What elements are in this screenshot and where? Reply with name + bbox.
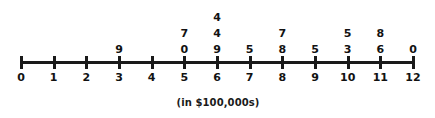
tick-mark <box>249 56 252 69</box>
value-stack-5: 07 <box>181 25 189 57</box>
value-stack-9: 5 <box>311 41 319 57</box>
data-value: 9 <box>213 41 221 57</box>
value-stack-8: 87 <box>279 25 287 57</box>
value-stack-6: 944 <box>213 9 221 57</box>
tick-label-8: 8 <box>279 72 287 83</box>
tick-label-0: 0 <box>17 72 25 83</box>
data-value: 5 <box>311 41 319 57</box>
data-value: 8 <box>377 25 385 41</box>
axis-units-caption: (in $100,000s) <box>176 97 259 108</box>
tick-label-9: 9 <box>311 72 319 83</box>
tick-mark <box>118 56 121 69</box>
tick-mark <box>183 56 186 69</box>
tick-label-6: 6 <box>213 72 221 83</box>
value-stack-11: 68 <box>377 25 385 57</box>
tick-label-11: 11 <box>373 72 388 83</box>
data-value: 5 <box>344 25 352 41</box>
data-value: 7 <box>279 25 287 41</box>
data-value: 5 <box>246 41 254 57</box>
data-value: 0 <box>181 41 189 57</box>
data-value: 4 <box>213 25 221 41</box>
tick-mark <box>412 56 415 69</box>
tick-mark <box>314 56 317 69</box>
data-value: 0 <box>409 41 417 57</box>
data-value: 9 <box>115 41 123 57</box>
tick-mark <box>347 56 350 69</box>
tick-mark <box>20 56 23 69</box>
tick-label-2: 2 <box>83 72 91 83</box>
data-value: 4 <box>213 9 221 25</box>
tick-mark <box>85 56 88 69</box>
tick-label-10: 10 <box>340 72 355 83</box>
value-stack-10: 35 <box>344 25 352 57</box>
tick-label-4: 4 <box>148 72 156 83</box>
data-value: 3 <box>344 41 352 57</box>
tick-mark <box>281 56 284 69</box>
tick-mark <box>379 56 382 69</box>
data-value: 6 <box>377 41 385 57</box>
value-stack-3: 9 <box>115 41 123 57</box>
tick-mark <box>151 56 154 69</box>
tick-label-12: 12 <box>405 72 420 83</box>
tick-label-3: 3 <box>115 72 123 83</box>
tick-label-5: 5 <box>181 72 189 83</box>
tick-mark <box>216 56 219 69</box>
value-stack-12: 0 <box>409 41 417 57</box>
value-stack-7: 5 <box>246 41 254 57</box>
data-value: 7 <box>181 25 189 41</box>
tick-label-1: 1 <box>50 72 58 83</box>
dot-plot-figure: 0123456789101112 907944587535680 (in $10… <box>0 0 435 118</box>
data-value: 8 <box>279 41 287 57</box>
tick-label-7: 7 <box>246 72 254 83</box>
tick-mark <box>53 56 56 69</box>
